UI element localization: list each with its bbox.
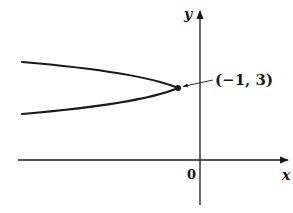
graph-canvas: (−1, 3) y x 0 [0,0,293,213]
x-axis-label: x [281,167,291,183]
vertex-point [175,85,181,91]
y-axis-label: y [183,6,193,22]
parabola-figure: (−1, 3) y x 0 [0,0,293,213]
parabola-curve [22,62,178,114]
vertex-pointer-arrow [183,80,213,87]
origin-label: 0 [187,167,196,182]
vertex-label: (−1, 3) [215,71,273,89]
